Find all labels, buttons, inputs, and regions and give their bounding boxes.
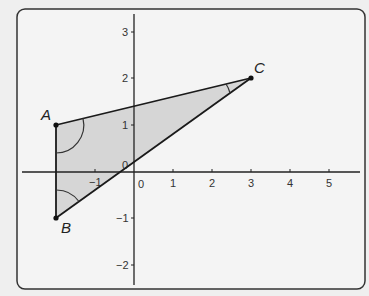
y-tick-label: −1 xyxy=(116,212,129,224)
y-tick-label: 1 xyxy=(122,119,128,131)
y-tick-label: 2 xyxy=(122,72,128,84)
x-tick-label: 0 xyxy=(138,178,144,190)
vertex-c-label: C xyxy=(254,59,265,76)
y-tick-label: 3 xyxy=(122,26,128,38)
vertex-c-point xyxy=(248,75,253,80)
coordinate-diagram: −1 0 1 2 3 4 5 3 2 1 0 −1 −2 A B C xyxy=(0,0,369,296)
y-tick-label: −2 xyxy=(116,259,129,271)
x-tick-label: 3 xyxy=(248,177,254,189)
x-tick-label: 5 xyxy=(326,177,332,189)
x-tick-label: 4 xyxy=(287,177,293,189)
vertex-a-label: A xyxy=(40,106,51,123)
x-tick-label: 2 xyxy=(209,177,215,189)
x-tick-label: 1 xyxy=(170,177,176,189)
vertex-b-label: B xyxy=(61,219,71,236)
vertex-b-point xyxy=(53,215,58,220)
vertex-a-point xyxy=(53,122,58,127)
